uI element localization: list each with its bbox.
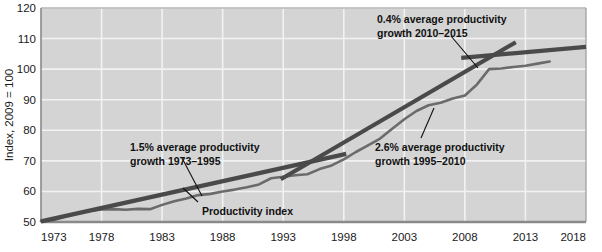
annotation-1995-2010-line1: 2.6% average productivity [375, 141, 505, 153]
x-tick-2018: 2018 [560, 231, 586, 243]
annotation-1973-1995-line2: growth 1973–1995 [130, 155, 221, 167]
y-axis-tick-labels: 5060708090100110120 [17, 2, 36, 228]
x-tick-1988: 1988 [210, 231, 236, 243]
x-tick-2008: 2008 [452, 231, 478, 243]
x-tick-1983: 1983 [149, 231, 175, 243]
x-tick-1973: 1973 [41, 231, 67, 243]
x-tick-2013: 2013 [513, 231, 539, 243]
y-tick-80: 80 [23, 124, 36, 136]
annotation-2010-2015-line1: 0.4% average productivity [377, 13, 507, 25]
x-tick-2003: 2003 [392, 231, 418, 243]
y-tick-60: 60 [23, 185, 36, 197]
y-axis-title: Index, 2009 = 100 [3, 69, 15, 161]
y-tick-90: 90 [23, 94, 36, 106]
x-tick-1993: 1993 [270, 231, 296, 243]
annotation-2010-2015-line2: growth 2010–2015 [377, 27, 468, 39]
x-tick-1998: 1998 [331, 231, 357, 243]
chart-canvas: 5060708090100110120 19731978198319881993… [0, 0, 602, 252]
x-tick-1978: 1978 [89, 231, 115, 243]
y-tick-120: 120 [17, 2, 36, 14]
annotation-1995-2010-line2: growth 1995–2010 [375, 155, 466, 167]
annotation-productivity-index-line1: Productivity index [202, 205, 293, 217]
productivity-chart: 5060708090100110120 19731978198319881993… [0, 0, 602, 252]
y-tick-100: 100 [17, 63, 36, 75]
plot-area-background [41, 8, 586, 222]
y-tick-110: 110 [18, 33, 36, 45]
y-tick-50: 50 [23, 216, 36, 228]
y-tick-70: 70 [23, 155, 36, 167]
x-axis-tick-labels: 1973197819831988199319982003200820132018 [41, 231, 586, 243]
annotation-1973-1995-line1: 1.5% average productivity [130, 141, 260, 153]
